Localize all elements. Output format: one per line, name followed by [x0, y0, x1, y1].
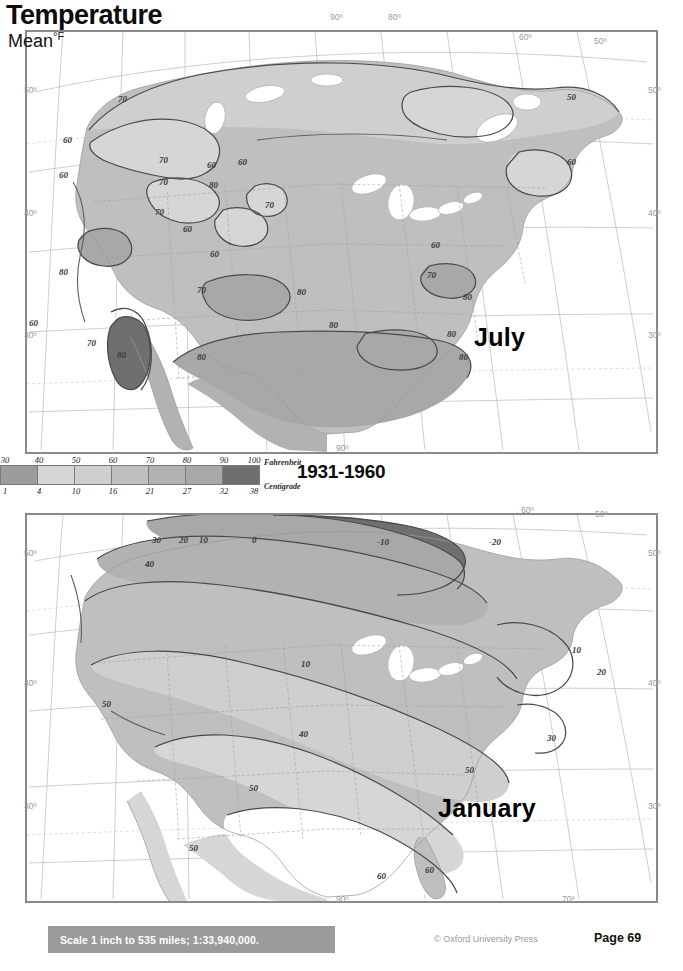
january-isotherm-label: 30: [152, 535, 161, 545]
july-lat-label-left: 30º: [24, 330, 37, 340]
july-map-frame: 70 60 60 70 60 60 70 70 60 80 60 70 80 8…: [25, 30, 658, 454]
july-isotherm-label: 80: [209, 180, 218, 190]
january-lon-label-bottom: 70º: [562, 894, 575, 904]
scale-text: Scale 1 inch to 535 miles; 1:33,940,000.: [60, 934, 259, 946]
july-lat-label-left: 50º: [24, 85, 37, 95]
january-isotherm-label: 0: [252, 535, 257, 545]
july-lat-label-left: 40º: [24, 208, 37, 218]
page-subtitle: Mean°F: [8, 31, 162, 50]
fahrenheit-tick: 100: [248, 455, 261, 465]
january-isotherm-label: -10: [377, 537, 389, 547]
fahrenheit-tick: 50: [72, 455, 81, 465]
january-isotherm-label: 50: [465, 765, 474, 775]
july-isotherm-label: 70: [155, 207, 164, 217]
january-map-graphic: [27, 515, 656, 901]
january-isotherm-label: 20: [597, 667, 606, 677]
legend-swatch: [112, 466, 149, 484]
july-lon-label-top: 80º: [388, 12, 401, 22]
july-lat-label-right: 40º: [648, 208, 661, 218]
legend-swatch: [75, 466, 112, 484]
january-isotherm-label: 50: [189, 843, 198, 853]
january-isotherm-label: 40: [299, 729, 308, 739]
july-isotherm-label: 60: [183, 224, 192, 234]
fahrenheit-tick: 90: [220, 455, 229, 465]
july-isotherm-label: 80: [447, 329, 456, 339]
legend-swatch: [186, 466, 223, 484]
july-isotherm-label: 70: [265, 200, 274, 210]
fahrenheit-tick: 60: [109, 455, 118, 465]
centigrade-tick: 38: [250, 486, 259, 496]
july-isotherm-label: 70: [87, 338, 96, 348]
january-map-panel: 30 20 10 0 -10 -20 20 10 20 40 30 50 10 …: [0, 496, 683, 908]
january-map-frame: 30 20 10 0 -10 -20 20 10 20 40 30 50 10 …: [25, 513, 658, 903]
july-lon-label-top: 50º: [594, 36, 607, 46]
january-lat-label-left: 40º: [24, 678, 37, 688]
legend-unit-centigrade: Centigrade: [264, 482, 300, 491]
january-lat-label-left: 30º: [24, 801, 37, 811]
july-isotherm-label: 70: [197, 285, 206, 295]
legend-unit-fahrenheit: Fahrenheit: [264, 458, 301, 467]
centigrade-tick: 27: [183, 486, 192, 496]
centigrade-tick: 1: [3, 486, 7, 496]
centigrade-tick: 10: [72, 486, 81, 496]
january-isotherm-label: 40: [145, 559, 154, 569]
january-isotherm-label: 30: [547, 733, 556, 743]
july-isotherm-label: 80: [59, 267, 68, 277]
january-isotherm-label: 10: [199, 535, 208, 545]
july-lat-label-right: 50º: [648, 85, 661, 95]
centigrade-tick-row: 1 4 10 16 21 27 32 38: [0, 486, 268, 497]
january-isotherm-label: -20: [489, 537, 501, 547]
july-isotherm-label: 60: [207, 160, 216, 170]
july-isotherm-label: 60: [238, 157, 247, 167]
legend-swatch: [223, 466, 259, 484]
page-footer: Scale 1 inch to 535 miles; 1:33,940,000.…: [0, 908, 683, 971]
july-map-panel: 70 60 60 70 60 60 70 70 60 80 60 70 80 8…: [0, 0, 683, 455]
page-subtitle-unit: °F: [53, 30, 64, 42]
centigrade-tick: 4: [37, 486, 41, 496]
july-isotherm-label: 70: [159, 155, 168, 165]
temperature-legend: 30 40 50 60 70 80 90 100 1 4 10 16 21 27…: [0, 455, 683, 496]
july-isotherm-label: 60: [210, 249, 219, 259]
july-lon-label-top: 60º: [519, 32, 532, 42]
january-month-label: January: [438, 794, 536, 823]
january-isotherm-label: 10: [572, 645, 581, 655]
page-number: Page 69: [594, 931, 641, 945]
centigrade-tick: 21: [146, 486, 155, 496]
january-isotherm-label: 60: [377, 871, 386, 881]
fahrenheit-tick: 80: [183, 455, 192, 465]
january-isotherm-label: 60: [425, 865, 434, 875]
january-isotherm-label: 10: [301, 659, 310, 669]
centigrade-tick: 16: [109, 486, 118, 496]
january-lat-label-right: 50º: [648, 548, 661, 558]
january-lat-label-right: 40º: [648, 678, 661, 688]
fahrenheit-tick: 30: [1, 455, 10, 465]
fahrenheit-tick: 40: [35, 455, 44, 465]
period-label: 1931-1960: [297, 461, 385, 483]
page-subtitle-text: Mean: [8, 31, 53, 51]
july-isotherm-label: 60: [431, 240, 440, 250]
july-isotherm-label: 80: [329, 320, 338, 330]
july-lat-label-right: 30º: [648, 330, 661, 340]
july-isotherm-label: 80: [463, 292, 472, 302]
legend-swatch: [149, 466, 186, 484]
copyright-text: © Oxford University Press: [434, 934, 538, 944]
january-lon-label-bottom: 90º: [336, 894, 349, 904]
january-lon-label-top: 60º: [521, 505, 534, 515]
january-isotherm-label: 50: [249, 783, 258, 793]
page-title: Temperature: [6, 2, 162, 29]
january-lat-label-left: 50º: [24, 548, 37, 558]
january-lat-label-right: 30º: [648, 801, 661, 811]
july-isotherm-label: 60: [29, 318, 38, 328]
july-month-label: July: [474, 323, 525, 352]
scale-box: Scale 1 inch to 535 miles; 1:33,940,000.: [48, 926, 335, 953]
legend-swatch: [1, 466, 38, 484]
january-lon-label-top: 50º: [595, 509, 608, 519]
july-isotherm-label: 50: [567, 92, 576, 102]
title-block: Temperature Mean°F: [6, 2, 162, 50]
july-lon-label-bottom: 90º: [336, 443, 349, 453]
fahrenheit-tick: 70: [146, 455, 155, 465]
july-isotherm-label: 80: [197, 352, 206, 362]
july-isotherm-label: 80: [297, 287, 306, 297]
july-isotherm-label: 60: [59, 170, 68, 180]
legend-color-bar: [0, 465, 260, 485]
